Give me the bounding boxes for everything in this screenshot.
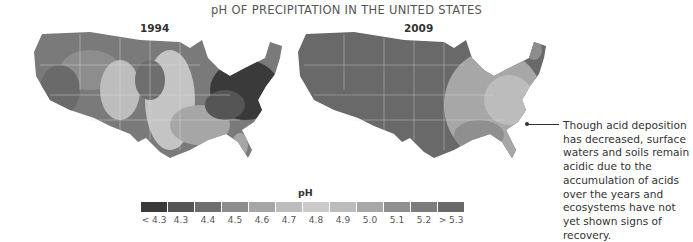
- legend-labels: < 4.3 4.3 4.4 4.5 4.6 4.7 4.8 4.9 5.0 5.…: [141, 215, 464, 225]
- legend-swatch: [384, 202, 410, 212]
- legend-label: 5.2: [411, 215, 437, 225]
- legend-label: 4.6: [249, 215, 275, 225]
- legend-swatch: [276, 202, 302, 212]
- annotation-pointer-line: [526, 124, 559, 125]
- legend-swatch: [168, 202, 194, 212]
- legend-label: < 4.3: [141, 215, 167, 225]
- legend-swatch: [222, 202, 248, 212]
- legend-label: > 5.3: [438, 215, 464, 225]
- legend-swatch: [303, 202, 329, 212]
- annotation-text: Though acid deposition has decreased, su…: [563, 119, 693, 242]
- legend-title: pH: [298, 187, 313, 198]
- legend-label: 4.4: [195, 215, 221, 225]
- legend-swatch: [195, 202, 221, 212]
- legend-label: 4.3: [168, 215, 194, 225]
- map-1994: [30, 30, 290, 180]
- map-2009: [294, 30, 554, 180]
- legend-label: 5.0: [357, 215, 383, 225]
- legend-label: 4.8: [303, 215, 329, 225]
- chart-title: pH OF PRECIPITATION IN THE UNITED STATES: [0, 3, 693, 17]
- legend-swatch: [330, 202, 356, 212]
- legend-swatch: [249, 202, 275, 212]
- legend-swatch: [357, 202, 383, 212]
- legend-label: 4.9: [330, 215, 356, 225]
- legend-swatch: [411, 202, 437, 212]
- legend-swatch: [438, 202, 464, 212]
- legend-label: 5.1: [384, 215, 410, 225]
- legend-swatch: [141, 202, 167, 212]
- legend-label: 4.5: [222, 215, 248, 225]
- legend-swatches: [141, 202, 464, 212]
- legend-label: 4.7: [276, 215, 302, 225]
